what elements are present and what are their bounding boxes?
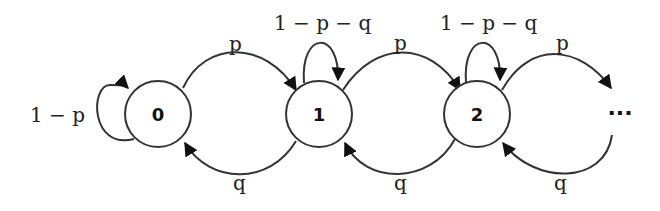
edge-2-to-2: 1 − p − q [440, 11, 537, 83]
edge-label-2-2: 1 − p − q [440, 11, 537, 35]
edge-1-to-0: q [185, 141, 296, 195]
edge-label-more-2: q [554, 171, 567, 195]
edge-label-1-2: p [394, 31, 407, 55]
edge-label-0-1: p [229, 32, 242, 56]
state-label-1: 1 [313, 104, 326, 125]
edge-more-to-2: q [503, 135, 612, 195]
edge-label-1-1: 1 − p − q [274, 11, 371, 35]
state-node-0: 0 [125, 81, 191, 147]
edge-1-to-2: p [343, 31, 460, 90]
state-node-1: 1 [286, 81, 352, 147]
edge-0-to-0: 1 − p [30, 85, 134, 140]
edge-2-to-1: q [345, 139, 455, 195]
state-node-2: 2 [444, 81, 510, 147]
edge-label-2-1: q [394, 171, 407, 195]
edge-label-1-0: q [233, 171, 246, 195]
edge-label-0-0: 1 − p [30, 103, 85, 127]
edge-label-2-more: p [556, 31, 569, 55]
markov-chain-diagram: 1 − p p q 1 − p − q p q 1 [0, 0, 660, 211]
state-label-2: 2 [471, 104, 484, 125]
edge-0-to-1: p [183, 32, 296, 90]
state-label-0: 0 [152, 104, 165, 125]
edge-2-to-more: p [502, 31, 611, 90]
continuation-ellipsis: ··· [607, 100, 632, 125]
